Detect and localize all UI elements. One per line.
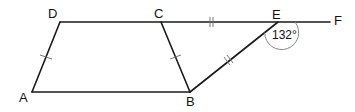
angle-label: 132° [272, 28, 297, 42]
point-label-f: F [334, 13, 342, 28]
point-label-c: C [154, 6, 163, 21]
point-label-d: D [48, 6, 57, 21]
geometry-diagram: D C E F A B 132° [0, 0, 355, 112]
point-label-a: A [19, 90, 28, 105]
point-label-b: B [186, 94, 195, 109]
segment-be [190, 22, 278, 92]
point-label-e: E [272, 7, 281, 22]
